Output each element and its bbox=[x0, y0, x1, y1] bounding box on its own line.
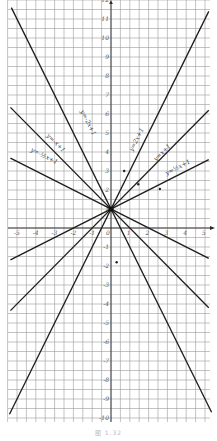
x-tick-label: 0 bbox=[106, 229, 110, 236]
y-tick-label: 2 bbox=[104, 186, 109, 193]
y-tick-label: 8 bbox=[105, 72, 109, 79]
y-tick-label: 4 bbox=[104, 148, 109, 155]
x-tick-label: 2 bbox=[145, 229, 150, 236]
plotted-point bbox=[159, 188, 161, 190]
y-tick-label: 10 bbox=[101, 34, 109, 41]
x-axis-arrow-icon bbox=[210, 226, 215, 230]
plotted-point bbox=[123, 170, 125, 172]
y-tick-label: -3 bbox=[103, 281, 109, 288]
y-tick-label: -10 bbox=[99, 414, 109, 421]
y-tick-label: 12 bbox=[101, 0, 109, 3]
y-tick-label: -7 bbox=[103, 357, 109, 364]
y-axis-arrow-icon bbox=[109, 0, 113, 4]
x-tick-label: 3 bbox=[164, 229, 168, 236]
coordinate-graph: -5-4-3-2-1012345-10-9-8-7-6-5-4-3-2-1123… bbox=[0, 0, 217, 441]
plotted-point bbox=[137, 183, 139, 185]
y-tick-label: 7 bbox=[105, 91, 109, 98]
x-tick-label: -2 bbox=[70, 229, 76, 236]
plotted-points bbox=[108, 170, 161, 264]
y-tick-label: 6 bbox=[105, 110, 109, 117]
x-tick-label: -3 bbox=[52, 229, 58, 236]
y-tick-label: -2 bbox=[103, 262, 109, 269]
x-tick-label: -5 bbox=[14, 229, 20, 236]
y-tick-label: 11 bbox=[101, 15, 109, 22]
y-tick-label: -6 bbox=[103, 338, 109, 345]
y-tick-label: 3 bbox=[105, 167, 109, 174]
y-tick-label: -9 bbox=[103, 395, 109, 402]
y-tick-label: 9 bbox=[105, 53, 109, 60]
plot-area: -5-4-3-2-1012345-10-9-8-7-6-5-4-3-2-1123… bbox=[0, 0, 217, 425]
x-tick-label: 4 bbox=[182, 229, 187, 236]
line-equation-label: y=-2x+1 bbox=[78, 108, 98, 137]
intersection-point bbox=[108, 206, 113, 211]
x-tick-label: 1 bbox=[127, 229, 131, 236]
y-tick-label: 5 bbox=[105, 129, 109, 136]
x-tick-label: -4 bbox=[33, 229, 39, 236]
line-equation-label: y=x+1 bbox=[151, 142, 172, 163]
figure-caption: 图 1.32 bbox=[0, 428, 217, 437]
y-tick-label: -8 bbox=[103, 376, 109, 383]
function-line bbox=[9, 11, 208, 414]
y-tick-label: -4 bbox=[103, 300, 109, 307]
plotted-point bbox=[115, 261, 117, 263]
y-tick-label: -1 bbox=[103, 243, 109, 250]
y-tick-label: -5 bbox=[103, 319, 109, 326]
x-tick-label: 5 bbox=[202, 229, 206, 236]
